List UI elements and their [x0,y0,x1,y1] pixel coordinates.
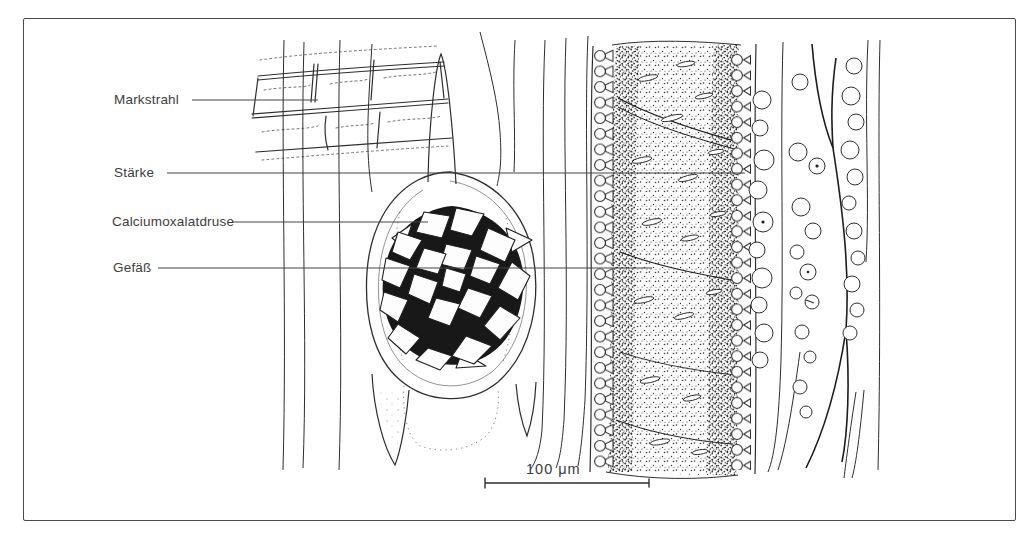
vessel-right-pits [730,52,754,470]
label-markstrahl: Markstrahl [114,93,179,107]
label-gefaess: Gefäß [113,261,152,275]
markstrahl-drawing [252,46,452,160]
vessel-left-pits [594,48,620,469]
label-staerke: Stärke [114,166,154,180]
vessel-drawing [590,41,756,478]
illustration-canvas [0,0,1031,535]
scale-bar [485,478,649,489]
figure-page: Markstrahl Stärke Calciumoxalatdruse Gef… [0,0,1031,535]
label-calciumoxalatdruse: Calciumoxalatdruse [112,215,234,229]
scale-bar-label: 100 μm [526,461,581,477]
starch-cells-drawing [749,40,880,478]
